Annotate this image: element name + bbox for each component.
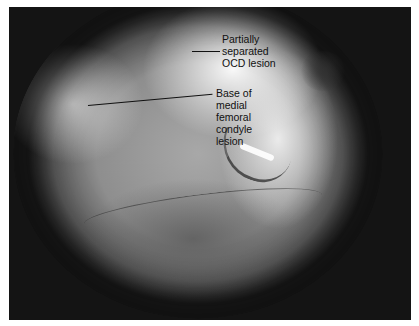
cartilage-edge <box>82 179 324 239</box>
arthroscope-field-of-view <box>13 7 383 319</box>
annotation-ocd-lesion: Partially separated OCD lesion <box>222 33 276 69</box>
annotation-mfc-base: Base of medial femoral condyle lesion <box>216 87 252 147</box>
leader-line-ocd-lesion <box>192 51 220 52</box>
shadow-region <box>301 51 345 91</box>
arthroscopic-photo <box>9 7 411 320</box>
